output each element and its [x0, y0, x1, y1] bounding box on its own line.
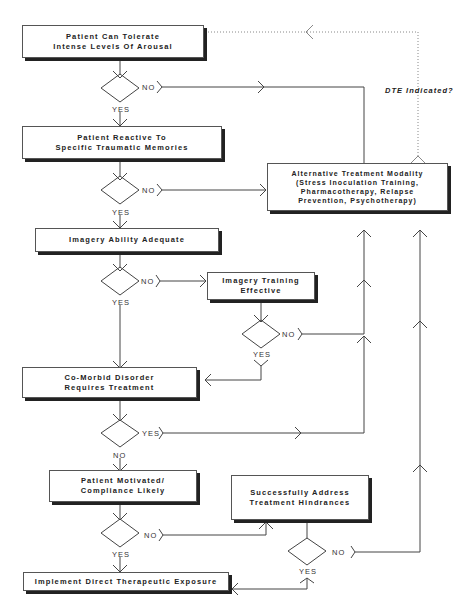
arrowhead [351, 546, 355, 558]
label-no-3: NO [141, 277, 154, 286]
node-comorbid: Co-Morbid Disorder Requires Treatment [22, 367, 197, 398]
node-implement: Implement Direct Therapeutic Exposure [23, 572, 229, 591]
decision-diamond-7 [288, 538, 326, 565]
node-hindrances: Successfully Address Treatment Hindrance… [231, 475, 369, 520]
label-yes-5: YES [142, 429, 160, 438]
label-no-4: NO [282, 330, 295, 339]
label-no-1: NO [142, 83, 155, 92]
arrowhead [298, 328, 302, 340]
arrowhead [156, 275, 160, 287]
label-no-2: NO [142, 186, 155, 195]
arrowhead [159, 529, 163, 541]
dte-indicated-note: DTE Indicated? [385, 86, 454, 95]
label-yes-3: YES [112, 298, 130, 307]
decision-diamond-6 [101, 519, 139, 547]
label-yes-6: YES [112, 550, 130, 559]
label-yes-4: YES [253, 350, 271, 359]
node-reactive: Patient Reactive To Specific Traumatic M… [22, 126, 222, 159]
connector [205, 366, 261, 380]
node-imagery: Imagery Ability Adequate [35, 228, 219, 252]
arrowhead [411, 156, 425, 163]
label-no-6: NO [144, 531, 157, 540]
node-alternative: Alternative Treatment Modality (Stress I… [267, 163, 448, 211]
label-no-5: NO [113, 451, 126, 460]
label-yes-1: YES [112, 105, 130, 114]
node-tolerate: Patient Can Tolerate Intense Levels Of A… [22, 25, 204, 58]
node-training: Imagery Training Effective [207, 272, 315, 300]
decision-diamond-5 [101, 420, 139, 447]
arrowhead [157, 81, 162, 93]
label-yes-2: YES [112, 208, 130, 217]
arrowhead [254, 360, 268, 366]
node-motivated: Patient Motivated/ Compliance Likely [49, 470, 197, 502]
decision-diamond-4 [242, 320, 280, 348]
arrowhead [157, 184, 162, 196]
connector [163, 522, 266, 535]
label-no-7: NO [332, 548, 345, 557]
label-yes-7: YES [299, 567, 317, 576]
connector [232, 578, 307, 589]
